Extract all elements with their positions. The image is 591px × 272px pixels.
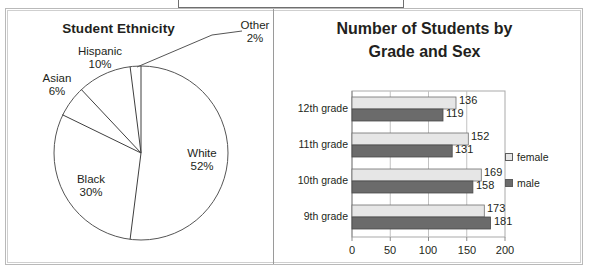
bar-value-9th-female: 173 (487, 202, 505, 214)
legend-swatch-female (505, 153, 513, 161)
bar-value-10th-female: 169 (484, 166, 502, 178)
bar-value-11th-male: 131 (455, 143, 473, 155)
legend-item-female: female (505, 151, 549, 163)
legend-label-male: male (517, 177, 540, 189)
clipped-caption-box (178, 0, 404, 8)
bar-value-12th-female: 136 (459, 94, 477, 106)
bar-category-11th: 11th grade (274, 138, 348, 150)
pie-label-white: White 52% (174, 147, 230, 173)
pie-chart-graphic (6, 9, 273, 264)
pie-chart-panel: Student Ethnicity White 52% Black 30% (6, 9, 273, 264)
legend-label-female: female (517, 151, 549, 163)
pie-label-asian: Asian 6% (33, 72, 81, 98)
legend-swatch-male (505, 179, 513, 187)
pie-label-black: Black 30% (64, 173, 118, 199)
bar-tick-150: 150 (453, 244, 481, 256)
bar-tick-100: 100 (414, 244, 442, 256)
bar-chart-graphic (274, 9, 583, 264)
bar-chart-panel: Number of Students by Grade and Sex (274, 9, 583, 264)
bar-category-9th: 9th grade (274, 210, 348, 222)
bar-value-9th-male: 181 (494, 215, 512, 227)
bar-tick-0: 0 (338, 244, 366, 256)
screenshot-stage: Student Ethnicity White 52% Black 30% (0, 0, 591, 272)
bar-chart-legend: female male (505, 151, 549, 203)
bar-tick-200: 200 (491, 244, 519, 256)
bar-category-10th: 10th grade (274, 174, 348, 186)
legend-item-male: male (505, 177, 549, 189)
bar-value-12th-male: 119 (446, 107, 464, 119)
pie-label-other: Other 2% (234, 19, 276, 45)
bar-category-12th: 12th grade (274, 102, 348, 114)
bar-value-10th-male: 158 (476, 179, 494, 191)
bar-value-11th-female: 152 (471, 130, 489, 142)
bar-tick-50: 50 (376, 244, 404, 256)
pie-label-hispanic: Hispanic 10% (68, 45, 132, 71)
